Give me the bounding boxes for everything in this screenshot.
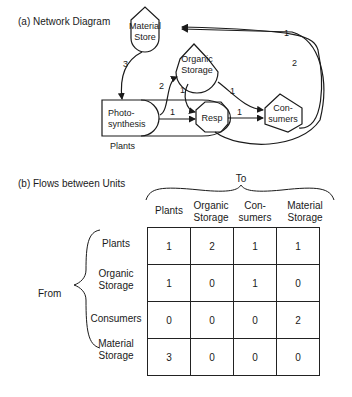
flows-table: 1 2 1 1 1 0 1 0 0 0 0 2 3 0 0 0	[147, 227, 320, 376]
cell: 3	[148, 339, 191, 376]
cell: 1	[234, 265, 277, 302]
edge-label-consumers-to-store-2: 2	[292, 58, 297, 68]
cell: 0	[234, 339, 277, 376]
edge-label-photo-to-resp: 1	[170, 107, 175, 117]
consumers-label: Con-sumers	[268, 103, 298, 124]
table-row: 1 0 1 0	[148, 265, 320, 302]
from-label: From	[38, 288, 61, 299]
cell: 1	[277, 228, 320, 265]
photosynthesis-label: Photo-synthesis	[108, 108, 146, 129]
row-header-organic-storage: OrganicStorage	[88, 268, 144, 292]
edge-label-organic-to-resp: 1	[180, 85, 185, 95]
table-row: 1 2 1 1	[148, 228, 320, 265]
edge-label-consumers-to-store-1: 1	[284, 28, 289, 38]
to-brace	[146, 185, 334, 200]
table-row: 0 0 0 2	[148, 302, 320, 339]
part-b-title: (b) Flows between Units	[18, 178, 125, 189]
cell: 2	[277, 302, 320, 339]
edge-label-resp-to-consumers: 1	[237, 107, 242, 117]
plants-label: Plants	[110, 141, 136, 151]
row-header-plants: Plants	[88, 238, 144, 250]
cell: 0	[277, 265, 320, 302]
part-a-title: (a) Network Diagram	[18, 16, 110, 27]
photosynthesis-node	[102, 100, 159, 136]
cell: 1	[148, 228, 191, 265]
edge-label-store-to-photo: 3	[123, 59, 128, 69]
edge-label-photo-to-organic: 2	[159, 81, 164, 91]
cell: 0	[277, 339, 320, 376]
col-header-plants: Plants	[147, 205, 191, 217]
cell: 1	[148, 265, 191, 302]
resp-label: Resp	[201, 113, 222, 123]
cell: 0	[191, 339, 234, 376]
material-store-label: MaterialStore	[129, 21, 161, 42]
consumers-node	[265, 94, 302, 132]
cell: 0	[234, 302, 277, 339]
cell: 0	[148, 302, 191, 339]
row-header-material-storage: MaterialStorage	[88, 338, 144, 362]
table-row: 3 0 0 0	[148, 339, 320, 376]
cell: 2	[191, 228, 234, 265]
col-header-material-storage: MaterialStorage	[281, 200, 329, 224]
col-header-organic-storage: OrganicStorage	[189, 200, 233, 224]
col-header-consumers: Con-sumers	[233, 200, 277, 224]
cell: 0	[191, 302, 234, 339]
cell: 0	[191, 265, 234, 302]
to-label: To	[236, 173, 247, 184]
row-header-consumers: Consumers	[86, 313, 146, 325]
organic-storage-label: OrganicStorage	[181, 54, 213, 75]
cell: 1	[234, 228, 277, 265]
edge-label-organic-to-consumers: 1	[230, 86, 235, 96]
